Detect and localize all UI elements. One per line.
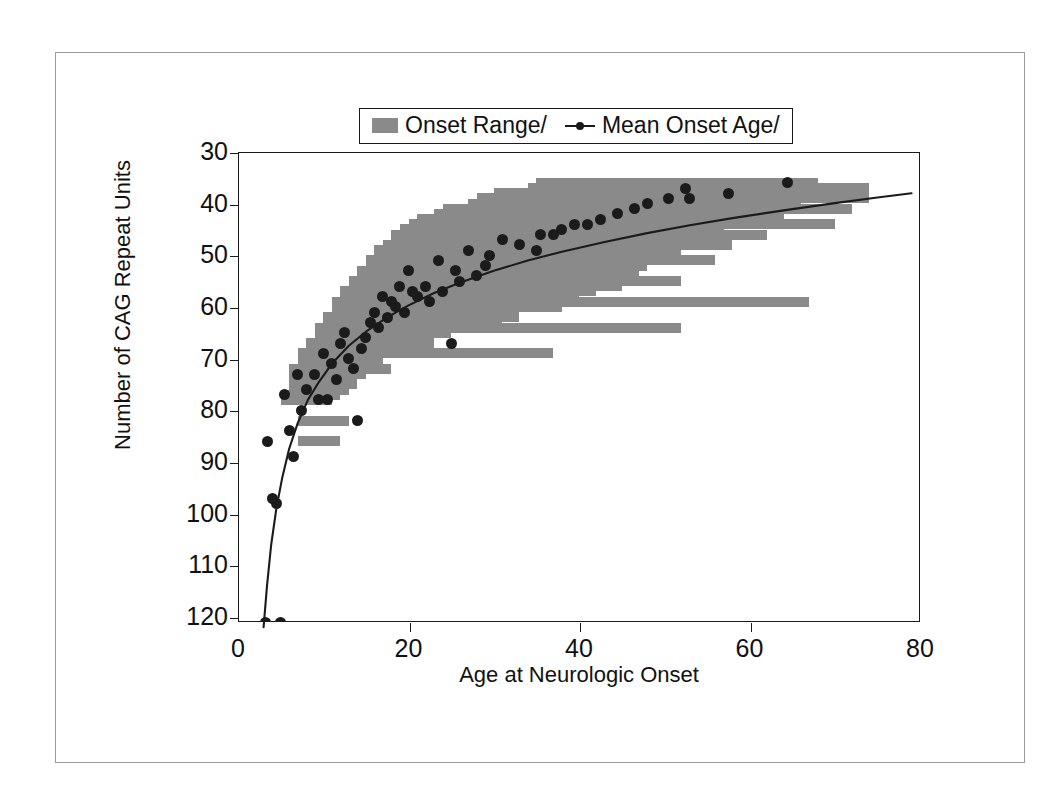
chart: Onset Range/ Mean Onset Age/ 30405060708… <box>0 0 1042 790</box>
figure-page: Onset Range/ Mean Onset Age/ 30405060708… <box>0 0 1042 790</box>
x-axis-tick-label: 80 <box>880 636 960 661</box>
x-axis-tick-label: 20 <box>369 636 449 661</box>
y-axis-title: Number of CAG Repeat Units <box>110 140 136 470</box>
x-axis-tick-label: 0 <box>198 636 278 661</box>
x-axis-tick-label: 40 <box>539 636 619 661</box>
x-axis-tick-label: 60 <box>710 636 790 661</box>
x-axis-title: Age at Neurologic Onset <box>238 662 920 688</box>
